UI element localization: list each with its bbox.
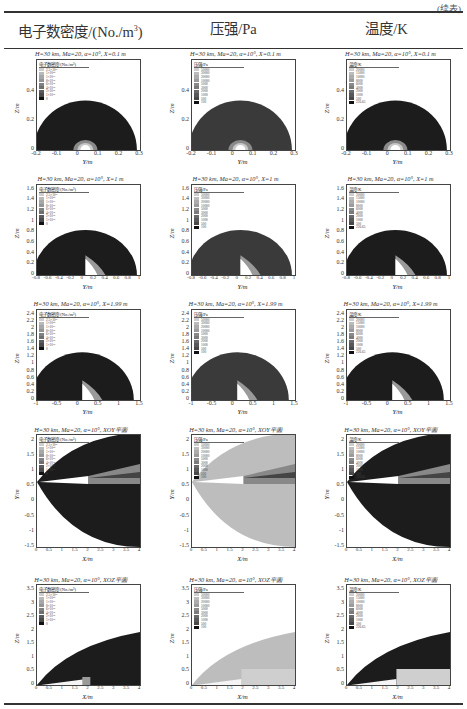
legend-value: 226.65 [356, 225, 365, 229]
x-tick-label: 0.1 [401, 150, 415, 156]
y-tick-label: 1.2 [20, 352, 34, 358]
y-tick-label: 1.6 [20, 338, 34, 344]
color-legend: 电子数密度/(No./m³)2.5×10²¹1×10²⁰1×10¹⁹8×10¹⁸… [39, 586, 89, 625]
y-tick-label: 1.8 [175, 331, 189, 337]
legend-value: 100 [201, 225, 206, 229]
y-tick-label: 1 [330, 466, 344, 472]
legend-value: 100 [201, 475, 206, 479]
legend-value: 226.65 [356, 625, 365, 629]
color-legend: 电子数密度/(No./m³)2.5×10²¹1×10²⁰1×10¹⁹8×10¹⁸… [39, 61, 89, 100]
color-legend: 温度/K200001500010000800060004000200010005… [349, 186, 399, 229]
plot-title: H=30 km, Ma=20, α=10°, XOZ平面 [159, 575, 312, 584]
color-legend: 温度/K200001500010000800060004000200010005… [349, 311, 399, 354]
x-tick-label: 0.5 [401, 400, 415, 406]
legend-entry: 100 [194, 350, 244, 354]
x-axis-label: Y/m [388, 158, 408, 165]
y-tick-label: 0.4 [175, 249, 189, 255]
x-tick-label: -0.2 [29, 150, 43, 156]
y-axis-label: Z/m [323, 94, 330, 114]
y-tick-label: 0.6 [20, 374, 34, 380]
y-tick-label: 0.5 [20, 481, 34, 487]
contour-plot-electron-density-X1m: H=30 km, Ma=20, α=10°, X=1 m电子数密度/(No./m… [4, 175, 157, 293]
y-tick-label: 1.4 [175, 345, 189, 351]
x-tick-label: 0 [70, 400, 84, 406]
x-tick-label: 1 [266, 400, 280, 406]
legend-swatch [194, 626, 199, 629]
x-tick-label: -0.5 [360, 400, 374, 406]
x-tick-label: 0 [70, 150, 84, 156]
y-tick-label: 1.6 [330, 338, 344, 344]
contour-plot-temperature-XOY平面: H=30 km, Ma=20, α=10°, XOY平面温度/K20000150… [314, 425, 467, 565]
y-tick-label: 2 [330, 324, 344, 330]
y-tick-label: 3.5 [20, 585, 34, 591]
table-header: 电子数密度/(No./m3) 压强/Pa 温度/K [4, 12, 463, 46]
x-tick-label: 0.2 [421, 150, 435, 156]
column-header-electron-density: 电子数密度/(No./m3) [4, 12, 157, 46]
legend-swatch [349, 101, 354, 104]
color-legend: 压强/Pa50000300002000010000500030002000100… [194, 186, 244, 229]
legend-entry: 226.65 [349, 475, 399, 479]
y-tick-label: 2.4 [20, 310, 34, 316]
plot-area: 电子数密度/(No./m³)2.5×10²¹1×10²⁰1×10¹⁹8×10¹⁸… [36, 184, 141, 276]
y-tick-label: 2 [330, 626, 344, 632]
x-tick-label: 1 [287, 275, 301, 280]
x-tick-label: -0.2 [184, 150, 198, 156]
y-tick-label: 0.8 [330, 227, 344, 233]
y-tick-label: 3.5 [330, 585, 344, 591]
legend-swatch [39, 347, 44, 350]
y-tick-label: 0.6 [330, 238, 344, 244]
plot-title: H=30 km, Ma=20, α=10°, X=0.1 m [159, 50, 312, 57]
y-axis-label: Z/m [13, 344, 20, 364]
x-tick-label: 0 [225, 400, 239, 406]
legend-value: 100 [201, 100, 206, 104]
x-axis-label: Y/m [233, 158, 253, 165]
y-tick-label: 0.8 [175, 227, 189, 233]
y-tick-label: 2.2 [175, 317, 189, 323]
legend-swatch [194, 101, 199, 104]
legend-value: 0 [46, 622, 48, 626]
y-tick-label: 1 [20, 466, 34, 472]
y-tick-label: 2 [175, 436, 189, 442]
y-axis-label: Z/m [168, 624, 175, 644]
y-tick-label: 0.8 [20, 227, 34, 233]
legend-entry: 100 [194, 625, 244, 629]
x-tick-label: 4 [442, 547, 456, 552]
plot-title: H=30 km, Ma=20, α=10°, X=1 m [4, 175, 157, 182]
y-axis-label: Z/m [168, 219, 175, 239]
y-tick-label: 0.4 [20, 381, 34, 387]
y-tick-label: 0.6 [20, 238, 34, 244]
y-tick-label: -0.5 [175, 512, 189, 518]
x-axis-label: Y/m [78, 408, 98, 415]
x-tick-label: 0.2 [111, 150, 125, 156]
legend-entry: 226.65 [349, 625, 399, 629]
y-tick-label: 0.8 [175, 367, 189, 373]
plot-area: 压强/Pa50000300002000010000500030002000100… [191, 584, 296, 686]
y-tick-label: 1.5 [330, 451, 344, 457]
plot-title: H=30 km, Ma=20, α=10°, X=1.99 m [159, 300, 312, 307]
y-tick-label: 1.6 [330, 185, 344, 191]
y-tick-label: 0.5 [330, 481, 344, 487]
y-tick-label: 1.5 [330, 639, 344, 645]
legend-swatch [349, 476, 354, 479]
legend-value: 226.65 [356, 350, 365, 354]
x-tick-label: 4 [287, 547, 301, 552]
plot-title: H=30 km, Ma=20, α=10°, X=1.99 m [314, 300, 467, 307]
legend-value: 0 [46, 97, 48, 101]
contour-plot-electron-density-X01m: H=30 km, Ma=20, α=10°, X=0.1 m电子数密度/(No.… [4, 50, 157, 168]
y-tick-label: 0.2 [175, 116, 189, 122]
x-tick-label: 0.5 [91, 400, 105, 406]
legend-entry: 100 [194, 100, 244, 104]
y-tick-label: 2.2 [330, 317, 344, 323]
x-tick-label: -0.1 [360, 150, 374, 156]
legend-value: 0 [46, 472, 48, 476]
x-tick-label: -0.2 [339, 150, 353, 156]
contour-plot-pressure-XOZ平面: H=30 km, Ma=20, α=10°, XOZ平面压强/Pa5000030… [159, 575, 312, 703]
y-tick-label: 0.4 [330, 381, 344, 387]
y-axis-label: Z/m [13, 219, 20, 239]
y-tick-label: 2 [330, 436, 344, 442]
x-tick-label: -0.1 [205, 150, 219, 156]
y-tick-label: 0.6 [330, 374, 344, 380]
y-tick-label: 0.5 [20, 666, 34, 672]
x-tick-label: 4 [287, 685, 301, 690]
plot-area: 温度/K200001500010000800060004000200010005… [346, 184, 451, 276]
